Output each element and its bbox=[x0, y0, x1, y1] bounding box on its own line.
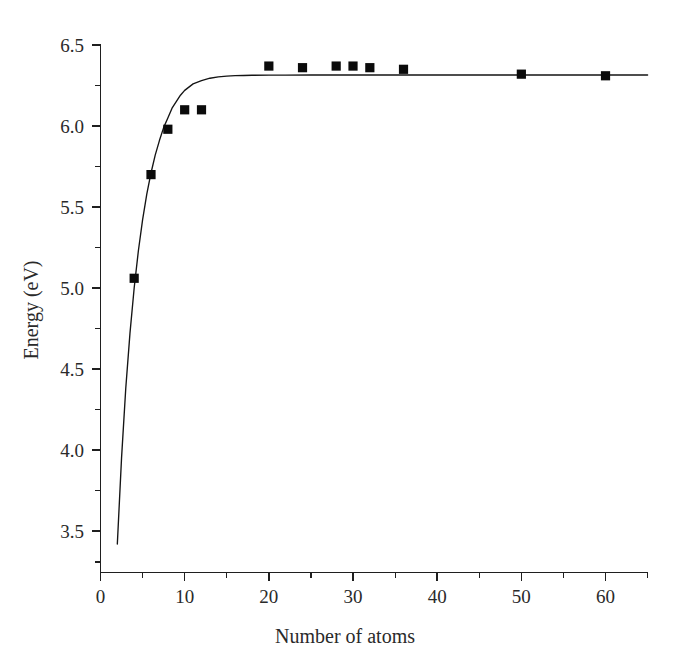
data-point-marker bbox=[264, 61, 273, 70]
data-point-marker bbox=[180, 105, 189, 114]
x-axis-minor-ticks bbox=[143, 573, 648, 579]
x-tick-label-60: 60 bbox=[596, 586, 615, 607]
y-axis-title: Energy (eV) bbox=[20, 260, 43, 359]
x-axis-title: Number of atoms bbox=[275, 625, 415, 647]
data-point-marker bbox=[601, 71, 610, 80]
y-tick-label-5.5: 5.5 bbox=[60, 197, 84, 218]
data-point-marker bbox=[197, 105, 206, 114]
scatter-plot-svg: 6.5 6.0 5.5 5.0 4.5 4.0 3.5 bbox=[0, 0, 682, 660]
y-tick-label-5.0: 5.0 bbox=[60, 278, 84, 299]
axes-group bbox=[101, 45, 649, 573]
x-tick-label-40: 40 bbox=[428, 586, 447, 607]
fit-curve bbox=[117, 75, 647, 544]
y-tick-label-4.5: 4.5 bbox=[60, 359, 84, 380]
y-tick-label-3.5: 3.5 bbox=[60, 521, 84, 542]
data-point-marker bbox=[163, 125, 172, 134]
x-tick-label-0: 0 bbox=[96, 586, 106, 607]
data-point-marker bbox=[348, 61, 357, 70]
data-point-marker bbox=[298, 63, 307, 72]
x-tick-label-20: 20 bbox=[259, 586, 278, 607]
y-tick-label-6.5: 6.5 bbox=[60, 35, 84, 56]
x-tick-label-30: 30 bbox=[344, 586, 363, 607]
data-point-marker bbox=[130, 274, 139, 283]
x-axis-tick-labels: 0 10 20 30 40 50 60 bbox=[96, 586, 615, 607]
x-tick-label-10: 10 bbox=[175, 586, 194, 607]
y-axis-minor-ticks bbox=[95, 86, 101, 563]
x-tick-label-50: 50 bbox=[512, 586, 531, 607]
y-tick-label-4.0: 4.0 bbox=[60, 440, 84, 461]
x-axis-major-ticks bbox=[101, 573, 606, 582]
data-point-marker bbox=[146, 170, 155, 179]
data-point-marker bbox=[517, 70, 526, 79]
data-point-marker bbox=[365, 63, 374, 72]
data-point-marker bbox=[399, 65, 408, 74]
chart-figure: 6.5 6.0 5.5 5.0 4.5 4.0 3.5 bbox=[0, 0, 682, 660]
data-point-marker bbox=[332, 61, 341, 70]
y-axis-tick-labels: 6.5 6.0 5.5 5.0 4.5 4.0 3.5 bbox=[60, 35, 84, 542]
y-tick-label-6.0: 6.0 bbox=[60, 116, 84, 137]
y-axis-major-ticks bbox=[92, 45, 101, 531]
data-point-markers bbox=[130, 61, 611, 282]
